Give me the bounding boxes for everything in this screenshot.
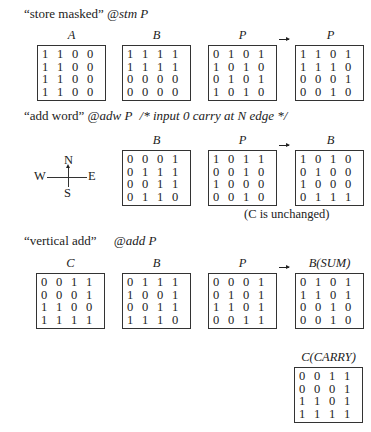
- matrix-cell: 1: [127, 314, 142, 327]
- matrix-cell: 1: [299, 395, 314, 408]
- matrix-cell: 1: [142, 276, 157, 289]
- caption-comment: /* input 0 carry at N edge */: [140, 108, 288, 123]
- matrix-cell: 0: [345, 301, 360, 314]
- matrix-cell: 1: [57, 73, 72, 86]
- matrix-label: B: [295, 133, 366, 148]
- matrix-cell: 1: [315, 276, 330, 289]
- matrix-cell: 0: [300, 73, 315, 86]
- matrix-cell: 0: [314, 370, 329, 383]
- matrix-cell: 1: [330, 191, 345, 204]
- matrix-cell: 1: [157, 191, 172, 204]
- matrix-cell: 0: [142, 301, 157, 314]
- matrix-cell: 1: [243, 314, 258, 327]
- matrix-cell: 0: [330, 73, 345, 86]
- caption-command: @adw P: [88, 108, 133, 123]
- matrix-cell: 0: [172, 191, 187, 204]
- matrix-cell: 0: [157, 153, 172, 166]
- matrix-cell: 1: [315, 48, 330, 61]
- matrix-cell: 0: [127, 276, 142, 289]
- matrix-cell: 0: [127, 73, 142, 86]
- matrix-cell: 1: [42, 48, 57, 61]
- matrix-cell: 1: [142, 314, 157, 327]
- matrix-cell: 0: [41, 276, 56, 289]
- matrix-cell: 1: [172, 301, 187, 314]
- matrix-cell: 0: [228, 314, 243, 327]
- compass-east: E: [88, 169, 96, 184]
- matrix-cell: 0: [157, 86, 172, 99]
- matrix-cell: 0: [142, 153, 157, 166]
- matrix-cell: 0: [142, 86, 157, 99]
- matrix-cell: 0: [243, 178, 258, 191]
- matrix-cell: 1: [57, 48, 72, 61]
- matrix-cell: 0: [127, 153, 142, 166]
- matrix-cell: 1: [172, 276, 187, 289]
- matrix-cell: 1: [228, 48, 243, 61]
- matrix-cell: 0: [87, 73, 102, 86]
- matrix-cell: 1: [345, 276, 360, 289]
- matrix-cell: 0: [315, 178, 330, 191]
- matrix-cell: 0: [243, 73, 258, 86]
- matrix-cell: 0: [315, 301, 330, 314]
- matrix-label: P: [295, 28, 366, 43]
- compass-vertical-line: [68, 167, 69, 187]
- matrix-cell: 1: [258, 153, 273, 166]
- matrix-cell: 0: [86, 301, 101, 314]
- matrix-cell: 1: [228, 301, 243, 314]
- matrix-cell: 1: [258, 276, 273, 289]
- matrix-cell: 0: [345, 314, 360, 327]
- matrix-A: 1100110011001100: [37, 45, 106, 101]
- matrix-cell: 0: [127, 301, 142, 314]
- matrix-cell: 1: [213, 178, 228, 191]
- matrix-P: 0001010111010011: [208, 273, 277, 329]
- matrix-cell: 0: [315, 314, 330, 327]
- matrix-cell: 0: [157, 73, 172, 86]
- compass-horizontal-line: [47, 177, 87, 178]
- matrix-cell: 1: [172, 48, 187, 61]
- matrix-cell: 0: [127, 191, 142, 204]
- matrix-cell: 1: [157, 276, 172, 289]
- matrix-label: P: [207, 133, 278, 148]
- matrix-cell: 1: [243, 86, 258, 99]
- matrix-cell: 0: [300, 276, 315, 289]
- matrix-cell: 1: [344, 395, 359, 408]
- matrix-cell: 0: [142, 73, 157, 86]
- matrix-cell: 0: [330, 276, 345, 289]
- matrix-cell: 0: [258, 178, 273, 191]
- matrix-label: P: [207, 256, 278, 271]
- matrix-cell: 1: [330, 314, 345, 327]
- matrix-cell: 1: [330, 153, 345, 166]
- matrix-cell: 0: [228, 276, 243, 289]
- matrix-cell: 1: [258, 48, 273, 61]
- caption-quote: “add word”: [24, 108, 84, 123]
- matrix-cell: 1: [345, 191, 360, 204]
- matrix-cell: 0: [345, 86, 360, 99]
- matrix-cell: 0: [87, 86, 102, 99]
- matrix-cell: 1: [330, 301, 345, 314]
- caption-quote: “vertical add”: [24, 233, 97, 248]
- matrix-cell: 1: [300, 48, 315, 61]
- matrix-cell: 0: [315, 73, 330, 86]
- matrix-cell: 1: [213, 86, 228, 99]
- matrix-cell: 1: [86, 276, 101, 289]
- matrix-cell: 0: [300, 314, 315, 327]
- matrix-cell: 0: [228, 86, 243, 99]
- matrix-cell: 1: [344, 370, 359, 383]
- matrix-cell: 0: [330, 48, 345, 61]
- matrix-cell: 0: [127, 178, 142, 191]
- matrix-C-carry: 0011000111011111: [294, 367, 363, 423]
- matrix-cell: 0: [243, 301, 258, 314]
- matrix-cell: 1: [258, 301, 273, 314]
- matrix-cell: 1: [86, 314, 101, 327]
- matrix-cell: 0: [330, 178, 345, 191]
- matrix-cell: 0: [172, 314, 187, 327]
- matrix-label: B: [121, 256, 192, 271]
- matrix-cell: 0: [243, 48, 258, 61]
- caption-command: @stm P: [107, 6, 148, 21]
- matrix-cell: 1: [213, 301, 228, 314]
- matrix-cell: 0: [72, 86, 87, 99]
- matrix-cell: 0: [228, 153, 243, 166]
- compass-west: W: [34, 169, 46, 184]
- note-c-unchanged: (C is unchanged): [244, 207, 329, 222]
- caption-vertical-add: “vertical add” @add P: [24, 233, 156, 249]
- matrix-cell: 0: [213, 276, 228, 289]
